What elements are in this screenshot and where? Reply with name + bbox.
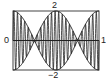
x-max-label: 1: [101, 36, 106, 45]
y-min-label: −2: [48, 71, 58, 80]
x-min-label: 0: [4, 36, 9, 45]
modulated-signal-line: [13, 11, 99, 70]
plot-area: [0, 0, 106, 81]
y-max-label: 2: [52, 1, 57, 10]
